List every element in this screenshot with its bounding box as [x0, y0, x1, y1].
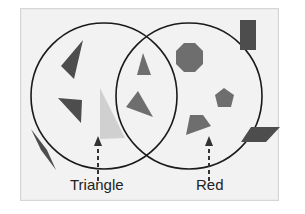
- dark-triangle-shape: [58, 98, 82, 123]
- venn-diagram: [0, 0, 305, 214]
- red-octagon-shape: [176, 43, 203, 72]
- dark-rectangle-shape: [240, 20, 256, 50]
- red-pentagon-shape: [215, 88, 234, 107]
- red-triangle-shape: [126, 91, 153, 117]
- red-trapezoid-shape: [186, 115, 211, 135]
- triangle-set-label: Triangle: [70, 177, 124, 192]
- dark-rhombus-shape: [31, 129, 56, 170]
- red-set-label: Red: [196, 177, 224, 192]
- arrowhead-icon: [205, 136, 213, 146]
- red-triangle-shape: [137, 53, 151, 75]
- dark-triangle-shape: [61, 40, 83, 79]
- pale-triangle-shape: [100, 88, 125, 139]
- dark-parallelogram-shape: [241, 127, 280, 142]
